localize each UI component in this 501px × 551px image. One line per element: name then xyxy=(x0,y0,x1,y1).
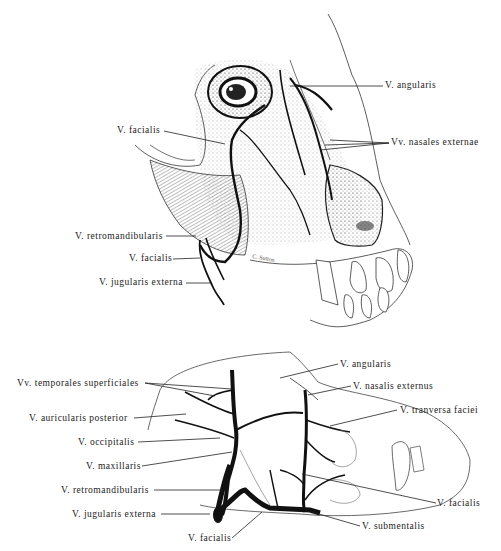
label-v-angularis-bottom: V. angularis xyxy=(340,359,391,370)
label-vv-nasales-externae: Vv. nasales externae xyxy=(391,137,479,148)
label-v-auricularis-posterior: V. auricularis posterior xyxy=(29,413,128,424)
label-v-tranversa-faciei: V. tranversa faciei xyxy=(400,405,478,416)
label-vv-temporales-superficiales: Vv. temporales superficiales xyxy=(17,378,139,389)
label-v-facialis-top-upper: V. facialis xyxy=(117,125,160,136)
label-v-maxillaris: V. maxillaris xyxy=(86,461,141,472)
bottom-schematic-drawing xyxy=(148,352,470,523)
label-v-retromandibularis-bottom: V. retromandibularis xyxy=(61,485,149,496)
label-v-nasalis-externus: V. nasalis externus xyxy=(353,381,433,392)
label-v-facialis-bottom-right: V. facialis xyxy=(437,498,480,509)
label-v-retromandibularis-top: V. retromandibularis xyxy=(75,231,163,242)
label-v-jugularis-externa-bottom: V. jugularis externa xyxy=(72,509,156,520)
label-v-facialis-top-lower: V. facialis xyxy=(129,253,172,264)
label-v-occipitalis: V. occipitalis xyxy=(78,437,134,448)
label-v-jugularis-externa-top: V. jugularis externa xyxy=(99,277,183,288)
label-v-angularis-top: V. angularis xyxy=(385,80,436,91)
label-v-facialis-bottom-lower: V. facialis xyxy=(188,533,231,544)
label-v-submentalis: V. submentalis xyxy=(362,521,425,532)
artist-signature: C. Sutton xyxy=(252,253,275,263)
